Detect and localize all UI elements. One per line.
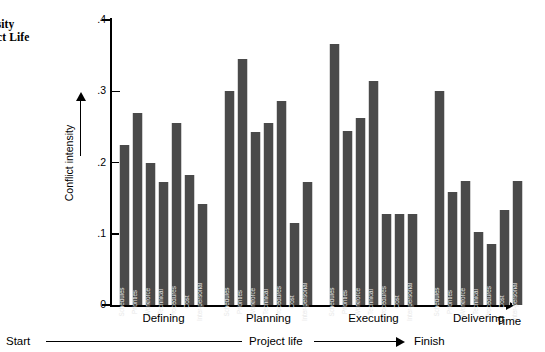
timeline-line-left [46,341,242,342]
bar-label: Technical [367,289,374,315]
bar: Workforce [355,118,366,305]
x-axis-label: Time [496,315,521,327]
bar: Procedures [276,101,287,305]
bar-label: Technical [472,289,479,315]
bar-label: Technical [262,289,269,315]
bar: Priorities [132,113,143,305]
bar: Priorities [447,192,458,305]
timeline-start-label: Start [6,335,30,347]
bar: Schedules [329,44,340,305]
bar: Cost [499,210,510,305]
bar: Inter-personal [197,204,208,305]
bar: Cost [394,214,405,305]
bar-label: Priorities [236,290,243,314]
timeline-line-right [314,341,398,342]
bar: Priorities [342,131,353,305]
phase-label-delivering: Delivering [414,312,543,324]
bar-label: Priorities [446,290,453,314]
bar: Workforce [460,181,471,305]
bar-label: Cost [183,296,190,309]
bar: Procedures [171,123,182,305]
timeline-middle-label: Project life [249,335,303,347]
timeline-finish-label: Finish [414,335,445,347]
bar-label: Technical [157,289,164,315]
bar-series: SchedulesPrioritiesWorkforceTechnicalPro… [0,0,545,352]
bar: Inter-personal [302,182,313,305]
bar: Workforce [250,132,261,305]
bar-label: Priorities [341,290,348,314]
bar: Cost [184,175,195,305]
bar: Priorities [237,59,248,305]
bar: Procedures [381,214,392,305]
bar: Technical [158,182,169,305]
bar-label: Cost [288,296,295,309]
bar-label: Cost [498,296,505,309]
bar: Schedules [224,91,235,305]
bar-label: Priorities [131,290,138,314]
timeline-arrow-icon [396,337,405,347]
bar: Inter-personal [407,214,418,305]
conflict-intensity-figure: 11.5 Intensity Project Life Conflict int… [0,0,545,352]
bar: Schedules [119,145,130,305]
bar-label: Cost [393,296,400,309]
bar: Technical [263,123,274,305]
bar: Cost [289,223,300,305]
bar: Technical [368,81,379,305]
bar: Inter-personal [512,181,523,305]
bar: Schedules [434,91,445,305]
bar: Workforce [145,163,156,305]
bar: Procedures [486,244,497,305]
bar: Technical [473,232,484,305]
